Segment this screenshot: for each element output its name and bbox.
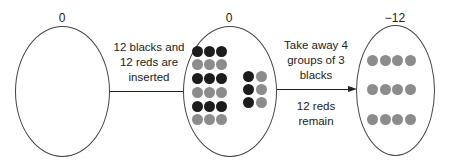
- transition-1-line-3: inserted: [105, 70, 193, 85]
- red-chip: [192, 114, 203, 125]
- red-chip: [380, 55, 391, 66]
- transition-1-label: 12 blacks and 12 reds are inserted: [105, 40, 193, 85]
- black-chip: [204, 46, 215, 57]
- black-chip: [243, 84, 254, 95]
- red-chip: [405, 84, 416, 95]
- black-chip: [243, 71, 254, 82]
- black-chip: [216, 73, 227, 84]
- black-chip: [192, 101, 203, 112]
- stage-1-value: 0: [42, 11, 82, 25]
- red-chip: [256, 71, 267, 82]
- transition-2-line-1: Take away 4: [272, 38, 360, 53]
- transition-2-top-label: Take away 4 groups of 3 blacks: [272, 38, 360, 83]
- red-chip: [380, 84, 391, 95]
- transition-1-arrow-line: [110, 91, 183, 92]
- red-chip: [204, 114, 215, 125]
- black-chip: [243, 97, 254, 108]
- red-chip: [380, 114, 391, 125]
- black-chip: [192, 73, 203, 84]
- transition-1-line-2: 12 reds are: [105, 55, 193, 70]
- red-chip: [216, 87, 227, 98]
- red-chip: [392, 84, 403, 95]
- red-chip: [256, 84, 267, 95]
- black-chip: [216, 101, 227, 112]
- red-chip: [204, 59, 215, 70]
- red-chip: [256, 97, 267, 108]
- transition-2-arrow-line: [277, 89, 349, 90]
- red-chip: [216, 59, 227, 70]
- red-chip: [405, 55, 416, 66]
- black-chip: [204, 101, 215, 112]
- black-chip: [192, 46, 203, 57]
- red-chip: [192, 59, 203, 70]
- black-chip: [216, 46, 227, 57]
- black-chip: [204, 73, 215, 84]
- red-chip: [392, 55, 403, 66]
- red-chip: [192, 87, 203, 98]
- transition-2-line-2: groups of 3: [272, 53, 360, 68]
- stage-1-oval: [15, 26, 110, 157]
- red-chip: [367, 84, 378, 95]
- red-chip: [204, 87, 215, 98]
- transition-1-line-1: 12 blacks and: [105, 40, 193, 55]
- transition-2-line-3: blacks: [272, 68, 360, 83]
- red-chip: [405, 114, 416, 125]
- red-chip: [392, 114, 403, 125]
- transition-2-line-4: 12 reds: [272, 99, 360, 114]
- transition-2-line-5: remain: [272, 114, 360, 129]
- red-chip: [367, 114, 378, 125]
- transition-2-bottom-label: 12 reds remain: [272, 99, 360, 129]
- red-chip: [367, 55, 378, 66]
- stage-3-value: −12: [375, 11, 415, 25]
- red-chip: [216, 114, 227, 125]
- stage-2-value: 0: [209, 11, 249, 25]
